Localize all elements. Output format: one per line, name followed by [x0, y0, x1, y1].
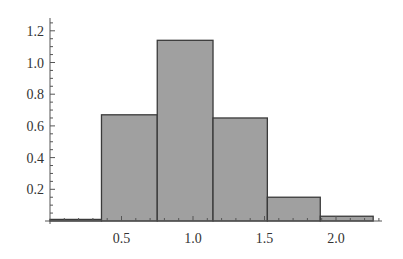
x-tick-label: 1.0: [184, 231, 202, 246]
x-tick-label: 0.5: [113, 231, 131, 246]
x-tick-label: 1.5: [256, 231, 274, 246]
y-tick-label: 0.2: [27, 182, 45, 197]
y-tick-label: 0.8: [27, 87, 45, 102]
y-tick-label: 0.4: [27, 151, 45, 166]
y-tick-label: 1.2: [27, 24, 45, 39]
x-tick-label: 2.0: [327, 231, 345, 246]
y-ticks: 0.20.40.60.81.01.2: [27, 23, 56, 213]
histogram-chart: 0.20.40.60.81.01.2 0.51.01.52.0: [0, 0, 403, 259]
y-tick-label: 0.6: [27, 119, 45, 134]
histogram-bar: [157, 40, 213, 221]
histogram-bar: [320, 216, 373, 221]
histogram-bar: [267, 197, 320, 221]
y-tick-label: 1.0: [27, 56, 45, 71]
histogram-bar: [101, 115, 157, 221]
histogram-bar: [213, 118, 267, 221]
histogram-bars: [50, 40, 373, 221]
